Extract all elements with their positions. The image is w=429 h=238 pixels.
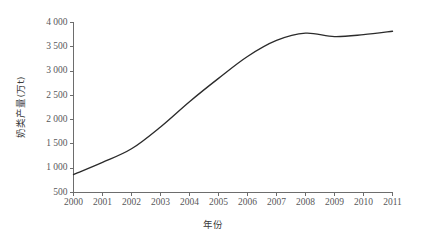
- x-tick-label: 2009: [325, 197, 344, 207]
- x-tick-label: 2004: [180, 197, 199, 207]
- x-tick-label: 2001: [93, 197, 112, 207]
- x-tick-label: 2007: [267, 197, 286, 207]
- y-tick-label: 4 000: [46, 17, 68, 27]
- y-axis-title: 奶类产量(万t): [15, 76, 26, 137]
- line-chart: 5001 0001 5002 0002 5003 0003 5004 000 2…: [0, 0, 429, 238]
- y-tick-label: 1 000: [46, 162, 68, 172]
- y-tick-label: 3 000: [46, 65, 68, 75]
- y-tick-label: 3 500: [46, 41, 68, 51]
- y-tick-label: 500: [53, 187, 68, 197]
- x-tick-label: 2011: [383, 197, 402, 207]
- y-tick-label: 2 000: [46, 114, 68, 124]
- x-tick-label: 2002: [122, 197, 141, 207]
- x-tick-label: 2000: [64, 197, 83, 207]
- chart-canvas: 5001 0001 5002 0002 5003 0003 5004 000 2…: [0, 0, 429, 238]
- x-tick-label: 2005: [209, 197, 228, 207]
- x-tick-label: 2003: [151, 197, 170, 207]
- x-tick-label: 2008: [296, 197, 315, 207]
- x-tick-label: 2010: [354, 197, 373, 207]
- x-tick-label: 2006: [238, 197, 257, 207]
- x-axis-title: 年份: [203, 219, 223, 230]
- y-tick-label: 2 500: [46, 90, 68, 100]
- y-tick-label: 1 500: [46, 138, 68, 148]
